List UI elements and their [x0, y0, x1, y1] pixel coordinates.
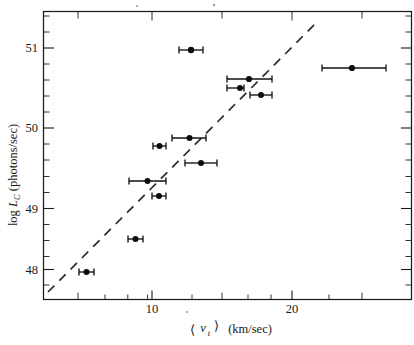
data-point [322, 65, 386, 72]
svg-text:⟩: ⟩ [214, 319, 219, 333]
y-tick-label-50: 50 [26, 121, 39, 135]
y-tick-label-51: 51 [26, 41, 39, 55]
figure-panel: 51 50 49 48 10 20 log LC (photons/sec) ⟨… [0, 0, 414, 345]
y-tick-label-48: 48 [26, 263, 39, 277]
svg-text:⟨: ⟨ [190, 323, 195, 337]
x-axis-ticks [78, 12, 362, 300]
y-axis-ticks [44, 16, 412, 285]
data-point [250, 92, 272, 99]
data-series [79, 47, 386, 276]
data-point [152, 193, 166, 200]
x-tick-labels: 10 20 [146, 302, 299, 316]
fit-line [48, 20, 319, 292]
x-tick-label-20: 20 [286, 302, 299, 316]
x-tick-label-10: 10 [146, 302, 159, 316]
data-point [128, 236, 143, 243]
scatter-plot: 51 50 49 48 10 20 log LC (photons/sec) ⟨… [0, 0, 414, 345]
data-point [185, 160, 217, 167]
y-tick-label-49: 49 [26, 202, 39, 216]
data-point [79, 269, 94, 276]
data-point [172, 135, 206, 142]
svg-text:log LC (photons/sec): log LC (photons/sec) [6, 124, 22, 226]
y-axis-title-prefix: log [6, 207, 20, 226]
x-axis-title: ⟨ v t ⟩ (km/sec) [190, 319, 272, 338]
y-axis-title-units: (photons/sec) [6, 124, 20, 194]
data-point [179, 47, 203, 54]
y-axis-title-var: L [6, 200, 20, 208]
data-point [129, 178, 166, 185]
scan-speck [213, 4, 215, 6]
plot-frame [44, 12, 412, 300]
y-tick-labels: 51 50 49 48 [26, 41, 39, 277]
x-axis-title-var: v [200, 321, 206, 335]
data-point [153, 143, 166, 150]
x-axis-title-sub: t [208, 328, 211, 338]
y-axis-title: log LC (photons/sec) [6, 124, 22, 226]
scan-speck [136, 5, 138, 7]
data-point [227, 85, 244, 92]
scan-speck [186, 311, 188, 313]
x-axis-title-units: (km/sec) [228, 322, 272, 336]
data-point [227, 76, 272, 83]
